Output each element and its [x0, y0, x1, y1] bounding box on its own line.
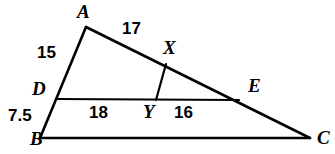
measure-label-DB: 7.5	[8, 107, 32, 124]
geometry-diagram: A B C D E X Y 17 15 7.5 18 16	[0, 0, 335, 154]
segment-XY	[156, 64, 166, 100]
measure-label-DY: 18	[89, 104, 108, 121]
vertex-label-E: E	[248, 76, 261, 95]
vertex-label-Y: Y	[143, 102, 155, 121]
measure-label-AX: 17	[122, 20, 141, 37]
vertex-label-B: B	[30, 129, 43, 148]
measure-label-AD: 15	[37, 44, 56, 61]
vertex-label-C: C	[317, 128, 330, 147]
vertex-label-D: D	[32, 79, 46, 98]
vertex-label-A: A	[77, 2, 90, 21]
diagram-canvas	[0, 0, 335, 154]
vertex-label-X: X	[163, 38, 176, 57]
side-AC	[86, 27, 310, 138]
measure-label-YE: 16	[174, 104, 193, 121]
segment-DE	[57, 99, 239, 100]
